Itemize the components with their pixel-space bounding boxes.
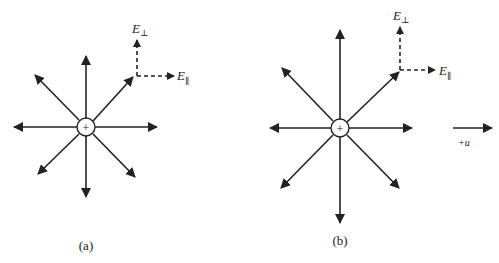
e-par-label-a: E∥ [176,68,189,86]
field-line-upper-right [347,72,399,122]
panel-b [270,27,492,223]
field-line-lower-left [38,134,79,174]
velocity-label: +u [458,137,470,148]
field-line-lower-right [347,135,399,188]
field-diagram: + E⊥ E∥ (a) + E⊥ E∥ +u (b) [0,0,499,263]
panel-a [14,40,174,197]
caption-b: (b) [332,233,347,248]
field-line-lower-right [93,134,135,177]
field-line-upper-left [35,75,79,120]
caption-a: (a) [79,238,93,253]
field-line-upper-right [93,77,133,121]
field-line-upper-left [282,68,333,121]
charge-symbol-b: + [337,122,344,136]
e-perp-label-a: E⊥ [131,21,148,38]
charge-symbol-a: + [83,121,90,135]
e-perp-label-b: E⊥ [392,8,409,25]
field-line-lower-left [281,135,333,188]
e-par-label-b: E∥ [438,63,451,81]
